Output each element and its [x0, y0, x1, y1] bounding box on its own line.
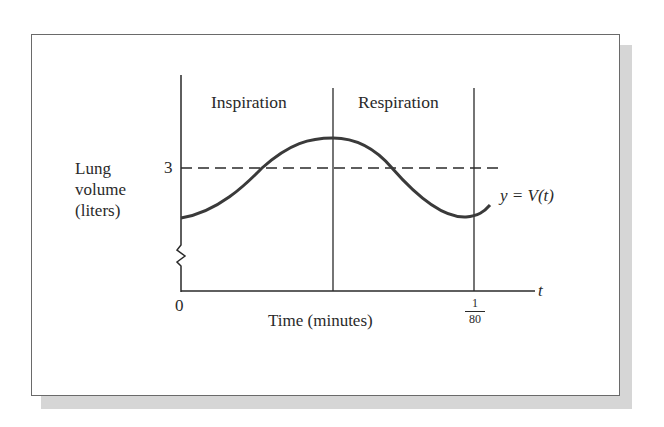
y-axis-label-line-1: Lung — [75, 158, 126, 179]
x-axis-variable: t — [538, 281, 543, 301]
curve-label: y = V(t) — [500, 186, 554, 206]
y-axis-label-line-3: (liters) — [75, 200, 126, 221]
y-axis-label: Lung volume (liters) — [75, 158, 126, 221]
fraction-denominator: 80 — [465, 312, 485, 326]
y-axis — [177, 75, 185, 292]
y-axis-label-line-2: volume — [75, 179, 126, 200]
phase-label-inspiration: Inspiration — [211, 92, 287, 112]
phase-label-respiration: Respiration — [358, 92, 439, 112]
x-tick-origin: 0 — [175, 296, 184, 316]
volume-curve — [181, 138, 490, 218]
y-tick-3: 3 — [164, 158, 173, 178]
fraction-numerator: 1 — [465, 297, 485, 312]
x-axis-label: Time (minutes) — [268, 311, 373, 331]
x-tick-end-fraction: 1 80 — [465, 297, 485, 326]
